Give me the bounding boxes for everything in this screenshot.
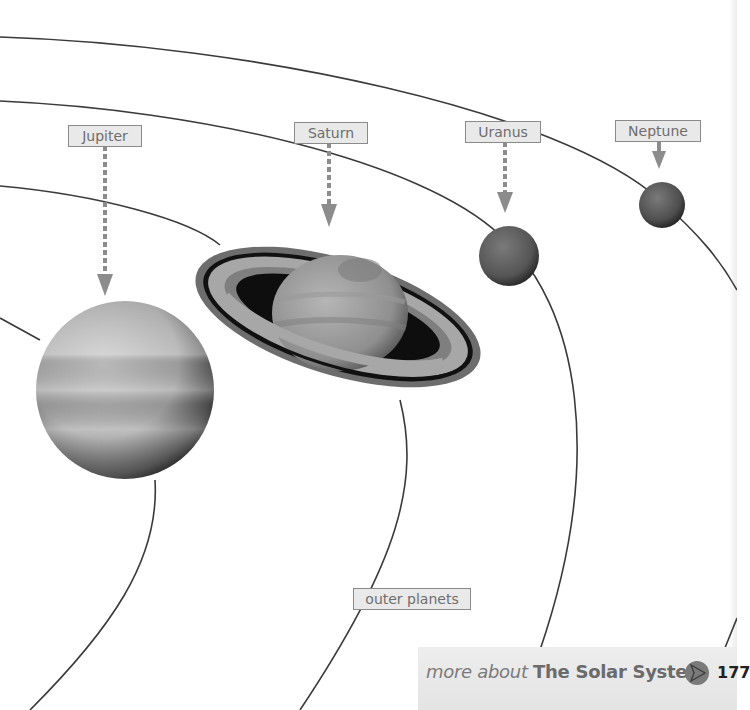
label-neptune: Neptune — [615, 120, 701, 142]
footer-prefix: more about — [426, 661, 528, 682]
page-number: 177 — [717, 663, 750, 682]
footer-text: more about The Solar System — [426, 661, 706, 682]
neptune-planet — [639, 182, 685, 228]
label-saturn: Saturn — [294, 122, 368, 144]
arrow-link-icon[interactable] — [684, 660, 710, 686]
footer-topic: The Solar System — [533, 661, 706, 682]
label-jupiter: Jupiter — [68, 125, 142, 147]
orbit-neptune — [0, 37, 737, 290]
jupiter-planet — [36, 301, 214, 479]
uranus-planet — [479, 226, 539, 286]
label-outer-planets: outer planets — [353, 588, 471, 610]
footer-cross-reference[interactable]: more about The Solar System 177 — [418, 647, 737, 710]
label-uranus: Uranus — [465, 121, 541, 143]
